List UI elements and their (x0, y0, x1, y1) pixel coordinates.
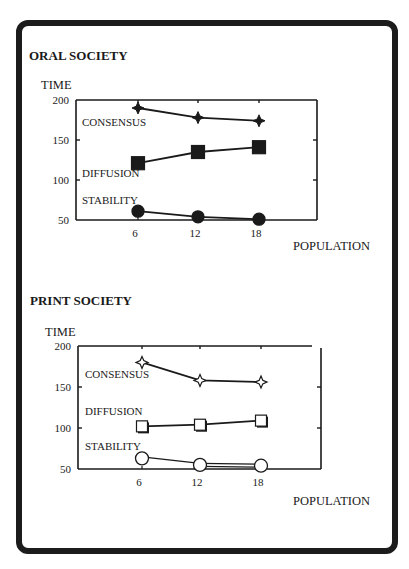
y-axis-title: TIME (41, 78, 72, 92)
y-axis-title: TIME (45, 325, 76, 339)
data-point-circle (192, 211, 204, 223)
data-point-star (194, 374, 206, 386)
data-point-square (195, 419, 206, 430)
data-point-star (253, 115, 265, 127)
print-society-chart: PRINT SOCIETY TIME POPULATION 2001501005… (30, 293, 370, 508)
series-label: DIFFUSION (82, 167, 140, 179)
data-point-square (256, 415, 267, 426)
data-point-star (255, 376, 267, 388)
data-point-square (137, 421, 148, 432)
series-line-segment (200, 463, 261, 464)
series-diffusion: DIFFUSION (82, 141, 266, 179)
y-tick-label: 100 (55, 422, 72, 434)
y-tick-label: 200 (55, 340, 72, 352)
x-tick-label: 12 (192, 476, 203, 488)
x-tick-label: 12 (190, 227, 201, 239)
x-axis-title: POPULATION (293, 494, 370, 508)
data-point-star (136, 356, 148, 368)
data-point-circle (255, 459, 268, 472)
series-line-segment (200, 466, 261, 467)
data-point-circle (136, 452, 149, 465)
x-tick-label: 6 (136, 476, 142, 488)
x-tick-label: 6 (132, 227, 138, 239)
chart-title: ORAL SOCIETY (29, 48, 128, 63)
y-tick-label: 50 (58, 214, 70, 226)
data-point-circle (194, 458, 207, 471)
y-tick-label: 150 (55, 381, 72, 393)
y-ticks: 20015010050 (53, 94, 318, 226)
series-label: STABILITY (82, 194, 138, 206)
data-point-circle (132, 205, 144, 217)
y-tick-label: 100 (53, 174, 70, 186)
data-point-square (192, 146, 205, 159)
series-consensus: CONSENSUS (82, 102, 265, 128)
x-axis-title: POPULATION (293, 239, 370, 253)
x-tick-label: 18 (251, 227, 263, 239)
figure-canvas: ORAL SOCIETY TIME POPULATION 20015010050… (0, 0, 409, 569)
oral-society-chart: ORAL SOCIETY TIME POPULATION 20015010050… (29, 48, 370, 253)
chart-title: PRINT SOCIETY (30, 293, 133, 308)
data-point-circle (253, 213, 265, 225)
series-stability: STABILITY (85, 440, 268, 472)
series-label: STABILITY (85, 440, 141, 452)
series-group: CONSENSUSDIFFUSIONSTABILITY (85, 356, 268, 472)
y-tick-label: 50 (60, 463, 72, 475)
y-tick-label: 200 (53, 94, 70, 106)
series-diffusion: DIFFUSION (85, 405, 268, 433)
series-label: DIFFUSION (85, 405, 143, 417)
series-group: CONSENSUSDIFFUSIONSTABILITY (82, 102, 266, 225)
series-line-segment (142, 457, 200, 464)
data-point-star (132, 102, 144, 114)
data-point-square (253, 141, 266, 154)
series-consensus: CONSENSUS (85, 356, 267, 388)
y-tick-label: 150 (53, 134, 70, 146)
series-label: CONSENSUS (82, 116, 146, 128)
x-tick-label: 18 (253, 476, 265, 488)
series-label: CONSENSUS (85, 368, 149, 380)
data-point-star (192, 112, 204, 124)
